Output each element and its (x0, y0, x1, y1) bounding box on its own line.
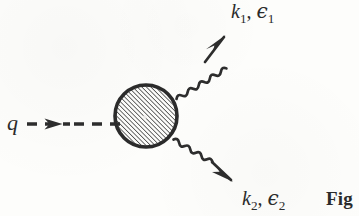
photon-wavy-line-upper (177, 68, 227, 99)
figure-canvas: q k1, ϵ1 k2, ϵ2 Fig (0, 0, 359, 216)
feynman-diagram-svg (0, 0, 359, 216)
photon-line-lower-group (174, 139, 234, 182)
label-incoming-momentum: q (7, 112, 18, 134)
label-k2-separator: , (257, 187, 267, 209)
label-k2-momentum: k (242, 187, 251, 209)
label-outgoing-upper: k1, ϵ1 (231, 1, 274, 25)
blob-center-speck (143, 115, 147, 119)
photon-arrowhead-upper-icon (206, 35, 226, 53)
label-k1-separator: , (246, 0, 256, 22)
label-q-symbol: q (7, 110, 18, 135)
figure-caption: Fig (326, 189, 353, 208)
hatched-vertex-blob-group (115, 85, 177, 147)
photon-line-upper-group (177, 35, 227, 99)
label-k2-polarization: ϵ (267, 186, 278, 210)
label-outgoing-lower: k2, ϵ2 (242, 188, 285, 212)
label-k1-momentum: k (231, 0, 240, 22)
incoming-dashed-line-group (27, 118, 120, 129)
photon-wavy-line-lower (174, 139, 213, 163)
label-k1-polarization-sub: 1 (268, 11, 275, 26)
photon-arrowhead-lower-icon (212, 165, 233, 182)
label-k2-polarization-sub: 2 (279, 198, 286, 213)
label-k1-polarization: ϵ (256, 0, 267, 23)
